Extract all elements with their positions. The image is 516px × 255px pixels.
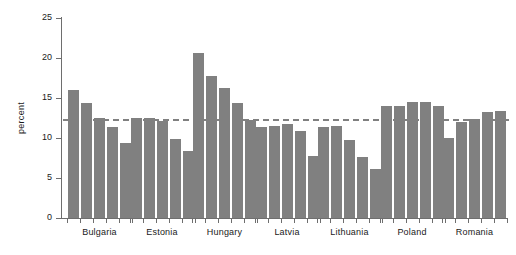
x-tick-mark bbox=[67, 218, 68, 223]
x-tick-mark bbox=[356, 218, 357, 223]
x-tick-mark bbox=[281, 218, 282, 223]
x-tick-mark bbox=[218, 218, 219, 223]
bar bbox=[381, 106, 392, 218]
x-tick-mark bbox=[382, 218, 383, 223]
x-tick-mark bbox=[231, 218, 232, 223]
bar bbox=[183, 151, 194, 218]
x-tick-mark bbox=[156, 218, 157, 223]
x-tick-mark bbox=[205, 218, 206, 223]
x-tick-mark bbox=[132, 218, 133, 223]
x-tick-mark bbox=[507, 218, 508, 223]
y-tick-label: 5 bbox=[12, 173, 52, 182]
x-tick-mark bbox=[192, 218, 193, 223]
bar bbox=[482, 112, 493, 218]
x-tick-mark bbox=[130, 218, 131, 223]
x-tick-mark bbox=[393, 218, 394, 223]
category-label: Romania bbox=[430, 227, 516, 238]
x-tick-mark bbox=[106, 218, 107, 223]
bar bbox=[282, 124, 293, 218]
x-tick-mark bbox=[93, 218, 94, 223]
x-tick-mark bbox=[380, 218, 381, 223]
x-tick-mark bbox=[419, 218, 420, 223]
y-tick-label: 20 bbox=[12, 53, 52, 62]
x-tick-mark bbox=[317, 218, 318, 223]
bar bbox=[469, 119, 480, 218]
y-axis-line bbox=[61, 17, 62, 219]
bar bbox=[157, 121, 168, 218]
y-tick-mark bbox=[56, 218, 61, 219]
bar bbox=[318, 127, 329, 218]
y-tick-mark bbox=[56, 18, 61, 19]
x-tick-mark bbox=[406, 218, 407, 223]
x-axis-line bbox=[61, 218, 507, 219]
bar bbox=[256, 127, 267, 218]
bar bbox=[219, 88, 230, 218]
x-tick-mark bbox=[432, 218, 433, 223]
x-tick-mark bbox=[445, 218, 446, 223]
x-tick-mark bbox=[294, 218, 295, 223]
x-tick-mark bbox=[330, 218, 331, 223]
y-axis-label: percent bbox=[14, 18, 28, 218]
bar bbox=[68, 90, 79, 218]
x-tick-mark bbox=[255, 218, 256, 223]
bar bbox=[495, 111, 506, 218]
x-tick-mark bbox=[455, 218, 456, 223]
bar bbox=[107, 127, 118, 218]
x-tick-mark bbox=[268, 218, 269, 223]
x-tick-mark bbox=[257, 218, 258, 223]
bar bbox=[193, 53, 204, 218]
y-tick-label: 15 bbox=[12, 93, 52, 102]
bar bbox=[295, 131, 306, 218]
y-tick-mark bbox=[56, 58, 61, 59]
x-tick-mark bbox=[195, 218, 196, 223]
bar bbox=[94, 118, 105, 218]
bar-chart: percent 0510152025 BulgariaEstoniaHungar… bbox=[0, 0, 516, 255]
y-tick-label: 0 bbox=[12, 213, 52, 222]
x-tick-mark bbox=[143, 218, 144, 223]
bar bbox=[131, 118, 142, 218]
bar bbox=[269, 126, 280, 218]
bar bbox=[370, 169, 381, 218]
bar bbox=[443, 138, 454, 218]
bar bbox=[344, 140, 355, 218]
bar bbox=[456, 122, 467, 218]
bar bbox=[433, 106, 444, 218]
x-tick-mark bbox=[80, 218, 81, 223]
x-tick-mark bbox=[320, 218, 321, 223]
y-tick-label: 10 bbox=[12, 133, 52, 142]
x-tick-mark bbox=[169, 218, 170, 223]
x-tick-mark bbox=[369, 218, 370, 223]
x-tick-mark bbox=[468, 218, 469, 223]
bar bbox=[206, 76, 217, 218]
bar bbox=[357, 157, 368, 218]
bar bbox=[394, 106, 405, 218]
x-tick-mark bbox=[343, 218, 344, 223]
y-tick-mark bbox=[56, 138, 61, 139]
x-tick-mark bbox=[442, 218, 443, 223]
x-tick-mark bbox=[481, 218, 482, 223]
reference-line bbox=[63, 119, 509, 121]
x-tick-mark bbox=[119, 218, 120, 223]
y-tick-label: 25 bbox=[12, 13, 52, 22]
x-tick-mark bbox=[244, 218, 245, 223]
bar bbox=[144, 118, 155, 218]
bar bbox=[170, 139, 181, 218]
x-tick-mark bbox=[494, 218, 495, 223]
y-tick-mark bbox=[56, 98, 61, 99]
y-tick-mark bbox=[56, 178, 61, 179]
bar bbox=[120, 143, 131, 218]
x-tick-mark bbox=[307, 218, 308, 223]
bar bbox=[308, 156, 319, 218]
bar bbox=[245, 120, 256, 218]
x-tick-mark bbox=[182, 218, 183, 223]
bar bbox=[331, 126, 342, 218]
